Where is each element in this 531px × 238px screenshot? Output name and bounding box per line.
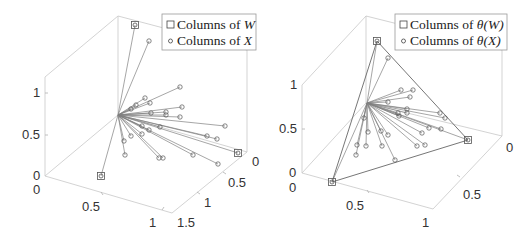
- x-tick-0.5: 0.5: [346, 198, 364, 213]
- y-tick-0: 0: [252, 154, 259, 169]
- rays: [332, 41, 468, 182]
- y-tick-0.5: 0.5: [228, 175, 246, 190]
- legend-w-label: Columns of: [177, 17, 244, 32]
- legend-w-math: W: [244, 17, 257, 32]
- z-tick-0.5: 0.5: [22, 127, 40, 142]
- y-tick-0: 0: [506, 140, 513, 155]
- z-tick-1: 1: [33, 85, 40, 100]
- svg-text:Columns of W: Columns of W: [177, 17, 257, 32]
- tick-marks: [45, 93, 226, 210]
- legend-x-math: X: [243, 33, 253, 48]
- y-tick-1: 1: [204, 195, 211, 210]
- z-tick-0: 0: [289, 165, 296, 180]
- tick-labels: 1 0.5 0 0 0.5 1 0 0.5: [279, 77, 513, 230]
- legend: Columns of W Columns of X: [162, 14, 257, 50]
- x-tick-0: 0: [289, 180, 296, 195]
- legend-w-math: θ(W): [477, 17, 504, 32]
- svg-text:Columns of X: Columns of X: [177, 33, 253, 48]
- svg-text:Columns of θ(X): Columns of θ(X): [410, 33, 501, 48]
- legend-x-label: Columns of: [410, 33, 477, 48]
- legend-w-label: Columns of: [410, 17, 477, 32]
- simplex-edges: [332, 41, 468, 182]
- x-tick-0: 0: [33, 182, 40, 197]
- z-tick-1: 1: [290, 77, 297, 92]
- z-tick-0: 0: [33, 168, 40, 183]
- legend: Columns of θ(W) Columns of θ(X): [395, 14, 507, 50]
- y-tick-0.5: 0.5: [463, 187, 481, 202]
- z-tick-0.5: 0.5: [279, 121, 297, 136]
- w-markers: [329, 38, 472, 186]
- tick-marks: [302, 129, 460, 193]
- axes-box: [302, 16, 502, 209]
- x-markers: [354, 56, 447, 162]
- svg-text:Columns of θ(W): Columns of θ(W): [410, 17, 504, 32]
- legend-x-label: Columns of: [177, 33, 244, 48]
- left-3d-plot: Columns of W Columns of X 1 0.5 0 0 0.5 …: [0, 0, 265, 238]
- legend-x-math: θ(X): [477, 33, 501, 48]
- y-tick-1.5: 1.5: [177, 215, 195, 230]
- x-tick-0.5: 0.5: [82, 199, 100, 214]
- x-tick-1: 1: [422, 215, 429, 230]
- x-tick-1: 1: [149, 215, 156, 230]
